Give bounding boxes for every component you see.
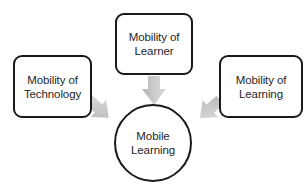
node-label-technology: Mobility of Technology — [21, 73, 84, 101]
node-label-mobile-learning: Mobile Learning — [128, 129, 178, 157]
arrow-learner-to-center — [142, 76, 166, 105]
diagram-canvas: Mobility of Technology Mobility of Learn… — [0, 0, 308, 194]
node-label-learner: Mobility of Learner — [126, 30, 183, 58]
node-mobility-of-technology[interactable]: Mobility of Technology — [13, 55, 92, 118]
node-mobility-of-learning[interactable]: Mobility of Learning — [219, 55, 303, 118]
node-mobility-of-learner[interactable]: Mobility of Learner — [115, 13, 193, 75]
node-label-learning: Mobility of Learning — [233, 73, 290, 101]
node-mobile-learning[interactable]: Mobile Learning — [114, 104, 192, 182]
